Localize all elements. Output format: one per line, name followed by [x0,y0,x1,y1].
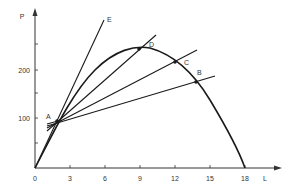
x-tick-label: 9 [138,175,142,182]
ray-b [47,76,215,126]
x-tick-label: 18 [241,175,249,182]
y-axis-label: P [20,13,25,20]
y-axis-arrow-icon [33,8,38,16]
production-chart: 0 3 6 9 12 15 18 L 100 200 P A D C B E [0,0,296,187]
total-product-curve [35,47,245,168]
label-e: E [107,16,112,23]
point-c [173,60,177,64]
point-a [55,119,59,123]
label-b: B [197,69,202,76]
y-tick-label: 100 [18,115,30,122]
x-tick-label: 3 [68,175,72,182]
label-d: D [149,41,154,48]
x-tick-label: 15 [206,175,214,182]
label-a: A [46,113,51,120]
ray-e [35,20,104,168]
label-c: C [184,59,189,66]
y-tick-label: 200 [18,67,30,74]
x-tick-label: 0 [33,175,37,182]
x-tick-label: 12 [171,175,179,182]
point-d [137,47,141,51]
point-b [194,80,198,84]
x-axis-arrow-icon [274,166,282,171]
rays [35,20,215,168]
x-axis-label: L [263,175,267,182]
x-tick-label: 6 [103,175,107,182]
points [55,47,198,123]
